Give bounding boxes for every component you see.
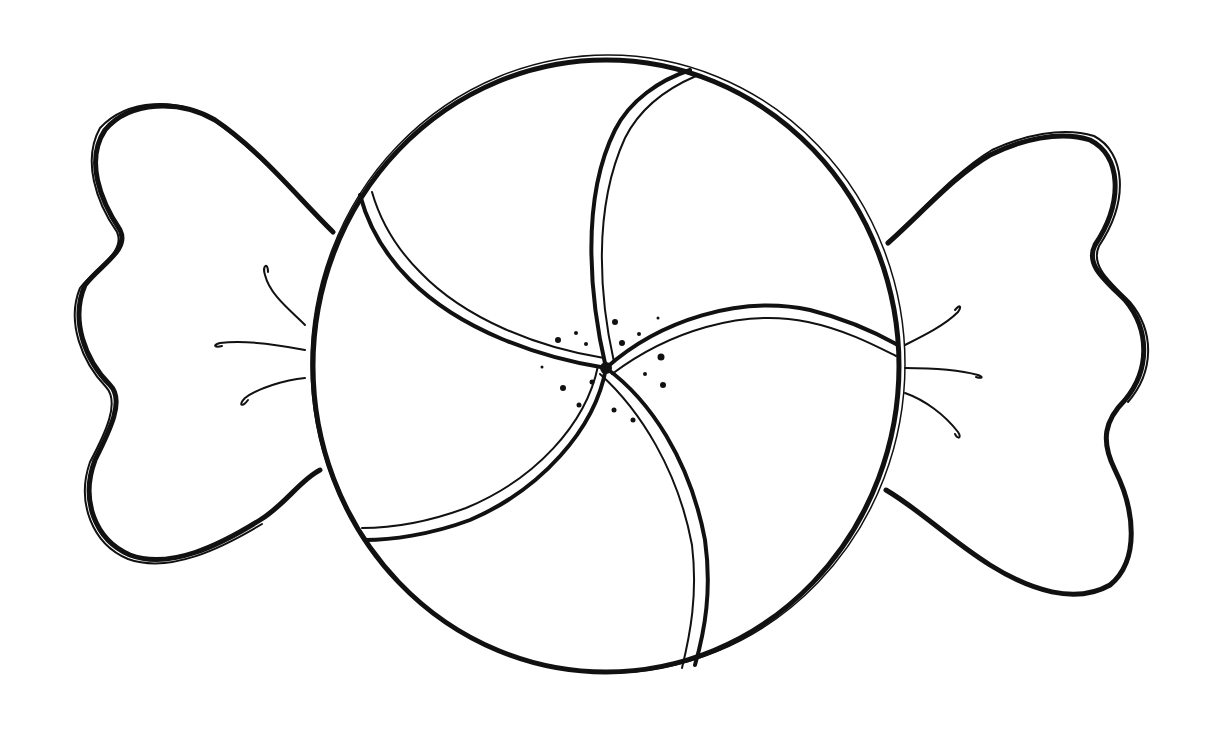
left-wrapper xyxy=(75,104,333,563)
candy-drawing xyxy=(0,0,1213,731)
candy-illustration: wrapped peppermint candy line drawing xyxy=(0,0,1213,731)
right-wrapper xyxy=(886,132,1148,594)
